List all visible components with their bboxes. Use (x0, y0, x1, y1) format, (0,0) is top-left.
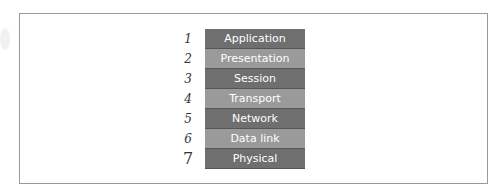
osi-layer-stack: Application Presentation Session Transpo… (205, 29, 305, 169)
scan-smudge (0, 28, 10, 50)
layer-presentation: Presentation (205, 49, 305, 69)
layer-application: Application (205, 29, 305, 49)
layer-numbers: 1 2 3 4 5 6 7 (178, 29, 198, 169)
layer-number: 6 (178, 129, 198, 149)
layer-transport: Transport (205, 89, 305, 109)
layer-data-link: Data link (205, 129, 305, 149)
layer-number: 3 (178, 69, 198, 89)
layer-number: 5 (178, 109, 198, 129)
layer-session: Session (205, 69, 305, 89)
layer-number: 2 (178, 49, 198, 69)
layer-number: 1 (178, 29, 198, 49)
layer-number: 4 (178, 89, 198, 109)
layer-physical: Physical (205, 149, 305, 169)
layer-network: Network (205, 109, 305, 129)
layer-number: 7 (178, 149, 198, 169)
